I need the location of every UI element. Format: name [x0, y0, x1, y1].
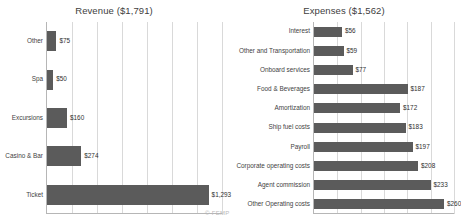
- value-label: $77: [356, 67, 367, 73]
- bar[interactable]: [314, 46, 344, 56]
- value-label: $208: [421, 163, 435, 169]
- value-label: $197: [416, 144, 430, 150]
- revenue-chart-title: Revenue ($1,791): [0, 5, 228, 16]
- bar[interactable]: [314, 103, 400, 113]
- gridline: [454, 22, 455, 214]
- bar[interactable]: [47, 108, 67, 128]
- revenue-plot-area: Other$75Spa$50Excursions$160Casino & Bar…: [46, 22, 222, 214]
- bar-row[interactable]: Ticket$1,293: [47, 176, 222, 214]
- bar[interactable]: [314, 161, 418, 171]
- bar-row[interactable]: Other Operating costs$260: [314, 195, 454, 214]
- bar[interactable]: [314, 65, 353, 75]
- bar[interactable]: [47, 146, 81, 166]
- bar[interactable]: [314, 142, 413, 152]
- bar[interactable]: [314, 27, 342, 37]
- category-label: Onboard services: [260, 67, 310, 73]
- gridline: [222, 22, 223, 214]
- value-label: $59: [347, 48, 358, 54]
- value-label: $233: [434, 182, 448, 188]
- value-label: $274: [84, 153, 98, 159]
- bar-row[interactable]: Casino & Bar$274: [47, 137, 222, 175]
- expenses-x-axis: [314, 213, 454, 214]
- category-label: Excursions: [12, 115, 43, 121]
- value-label: $187: [411, 86, 425, 92]
- value-label: $260: [447, 201, 461, 207]
- category-label: Agent commission: [258, 182, 310, 188]
- bar[interactable]: [314, 123, 406, 133]
- value-label: $50: [56, 76, 67, 82]
- expenses-plot-area: Interest$56Other and Transportation$59On…: [313, 22, 454, 214]
- category-label: Other and Transportation: [239, 48, 310, 54]
- bar[interactable]: [314, 84, 408, 94]
- value-label: $75: [59, 38, 70, 44]
- expenses-chart-panel: Expenses ($1,562) Interest$56Other and T…: [228, 0, 460, 224]
- category-label: Other: [27, 38, 43, 44]
- category-label: Amortization: [274, 105, 310, 111]
- bar-row[interactable]: Agent commission$233: [314, 176, 454, 195]
- bar-row[interactable]: Amortization$172: [314, 99, 454, 118]
- revenue-chart-panel: Revenue ($1,791) Other$75Spa$50Excursion…: [0, 0, 228, 224]
- revenue-x-axis: [47, 213, 222, 214]
- value-label: $183: [409, 124, 423, 130]
- bar-row[interactable]: Other and Transportation$59: [314, 41, 454, 60]
- watermark: © FEMP: [205, 210, 230, 216]
- bar-row[interactable]: Food & Beverages$187: [314, 80, 454, 99]
- value-label: $172: [403, 105, 417, 111]
- bar[interactable]: [314, 180, 431, 190]
- category-label: Food & Beverages: [257, 86, 310, 92]
- expenses-chart-title: Expenses ($1,562): [228, 5, 460, 16]
- category-label: Casino & Bar: [5, 153, 43, 159]
- category-label: Payroll: [290, 144, 310, 150]
- category-label: Spa: [32, 76, 43, 82]
- revenue-bar-rows: Other$75Spa$50Excursions$160Casino & Bar…: [47, 22, 222, 214]
- bar-row[interactable]: Other$75: [47, 22, 222, 60]
- bar-row[interactable]: Ship fuel costs$183: [314, 118, 454, 137]
- bar[interactable]: [47, 31, 56, 51]
- bar[interactable]: [314, 199, 444, 209]
- bar-row[interactable]: Interest$56: [314, 22, 454, 41]
- category-label: Interest: [289, 28, 310, 34]
- bar[interactable]: [47, 185, 209, 205]
- value-label: $160: [70, 115, 84, 121]
- category-label: Other Operating costs: [247, 201, 310, 207]
- category-label: Corporate operating costs: [236, 163, 310, 169]
- bar-row[interactable]: Spa$50: [47, 60, 222, 98]
- category-label: Ticket: [26, 192, 43, 198]
- expenses-bar-rows: Interest$56Other and Transportation$59On…: [314, 22, 454, 214]
- bar-row[interactable]: Excursions$160: [47, 99, 222, 137]
- bar[interactable]: [47, 70, 53, 90]
- bar-row[interactable]: Onboard services$77: [314, 60, 454, 79]
- bar-row[interactable]: Corporate operating costs$208: [314, 156, 454, 175]
- value-label: $56: [345, 28, 356, 34]
- bar-row[interactable]: Payroll$197: [314, 137, 454, 156]
- category-label: Ship fuel costs: [268, 124, 310, 130]
